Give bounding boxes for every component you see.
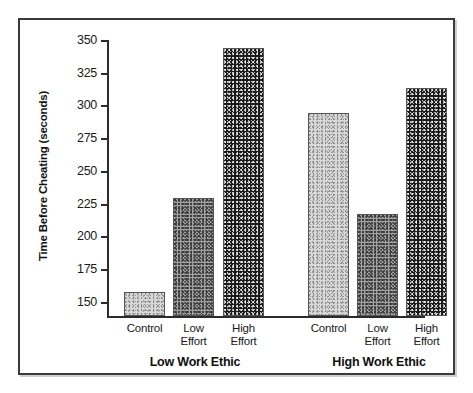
group-label: Low Work Ethic <box>115 355 275 369</box>
y-axis-tick <box>101 73 109 75</box>
bar <box>406 88 447 316</box>
y-axis-tick-label: 150 <box>51 295 97 309</box>
y-axis-tick-label: 175 <box>51 262 97 276</box>
y-axis-tick-label: 275 <box>51 131 97 145</box>
y-axis-tick <box>101 302 109 304</box>
bar-category-label-line1: High <box>397 322 456 335</box>
y-axis-tick <box>101 40 109 42</box>
bar <box>357 214 398 316</box>
y-axis-title: Time Before Cheating (seconds) <box>37 76 49 276</box>
bar <box>124 292 165 316</box>
bar <box>223 48 264 316</box>
y-axis-tick-label: 350 <box>51 33 97 47</box>
y-axis-tick <box>101 204 109 206</box>
x-axis-line <box>107 316 425 318</box>
bar-category-label: HighEffort <box>397 322 456 348</box>
bar <box>308 113 349 316</box>
y-axis-tick-label: 325 <box>51 66 97 80</box>
y-axis-tick-label: 300 <box>51 98 97 112</box>
y-axis-tick <box>101 171 109 173</box>
bar-category-label: HighEffort <box>214 322 273 348</box>
y-axis-tick <box>101 105 109 107</box>
y-axis-tick-label: 250 <box>51 164 97 178</box>
figure-frame: Time Before Cheating (seconds) 350325300… <box>18 18 455 375</box>
bar <box>173 198 214 316</box>
bar-category-label-line1: High <box>214 322 273 335</box>
y-axis-tick <box>101 269 109 271</box>
y-axis-tick-label: 225 <box>51 197 97 211</box>
bar-category-label-line2: Effort <box>214 335 273 348</box>
y-axis-tick-label: 200 <box>51 229 97 243</box>
bar-category-label-line2: Effort <box>397 335 456 348</box>
y-axis-tick <box>101 138 109 140</box>
chart-plot-area: Time Before Cheating (seconds) 350325300… <box>20 20 457 377</box>
group-label: High Work Ethic <box>299 355 459 369</box>
y-axis-tick <box>101 236 109 238</box>
y-axis-line <box>107 40 109 318</box>
